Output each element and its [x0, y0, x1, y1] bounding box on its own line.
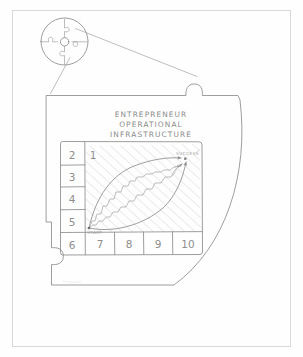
grid-cell-5: 5 — [69, 216, 76, 228]
connector-line-upper — [76, 29, 198, 77]
title-block: ENTREPRENEUR OPERATIONAL INFRASTRUCTURE — [110, 110, 192, 139]
success-label: SUCCESS — [176, 151, 199, 156]
grid-cell-8: 8 — [126, 238, 133, 250]
grid-bottom-row-divider — [61, 232, 203, 233]
four-part-puzzle-circle-icon — [41, 18, 88, 65]
grid-left-col-divider — [85, 142, 86, 254]
sketch-canvas: ENTREPRENEUR OPERATIONAL INFRASTRUCTURE — [0, 0, 303, 357]
hub-circle — [60, 38, 68, 46]
success-marker — [184, 158, 186, 160]
title-line-2: OPERATIONAL — [119, 120, 183, 129]
sketch-sheet: ENTREPRENEUR OPERATIONAL INFRASTRUCTURE — [0, 0, 303, 357]
grid-cell-9: 9 — [155, 238, 162, 250]
grid-cell-1: 1 — [90, 149, 97, 161]
grid-cell-7: 7 — [97, 238, 104, 250]
pencil-smudge — [63, 282, 81, 283]
infrastructure-grid: 2 3 4 5 6 7 8 9 10 1 — [61, 142, 204, 256]
title-line-3: INFRASTRUCTURE — [110, 130, 192, 139]
title-line-1: ENTREPRENEUR — [115, 110, 188, 119]
grid-cell-6: 6 — [69, 239, 76, 251]
grid-cell-10: 10 — [181, 238, 194, 250]
connector-line-lower — [51, 58, 71, 94]
grid-cell-2: 2 — [69, 149, 76, 161]
grid-cell-3: 3 — [69, 171, 76, 183]
start-label: START — [87, 230, 102, 235]
grid-cell-4: 4 — [69, 193, 76, 205]
